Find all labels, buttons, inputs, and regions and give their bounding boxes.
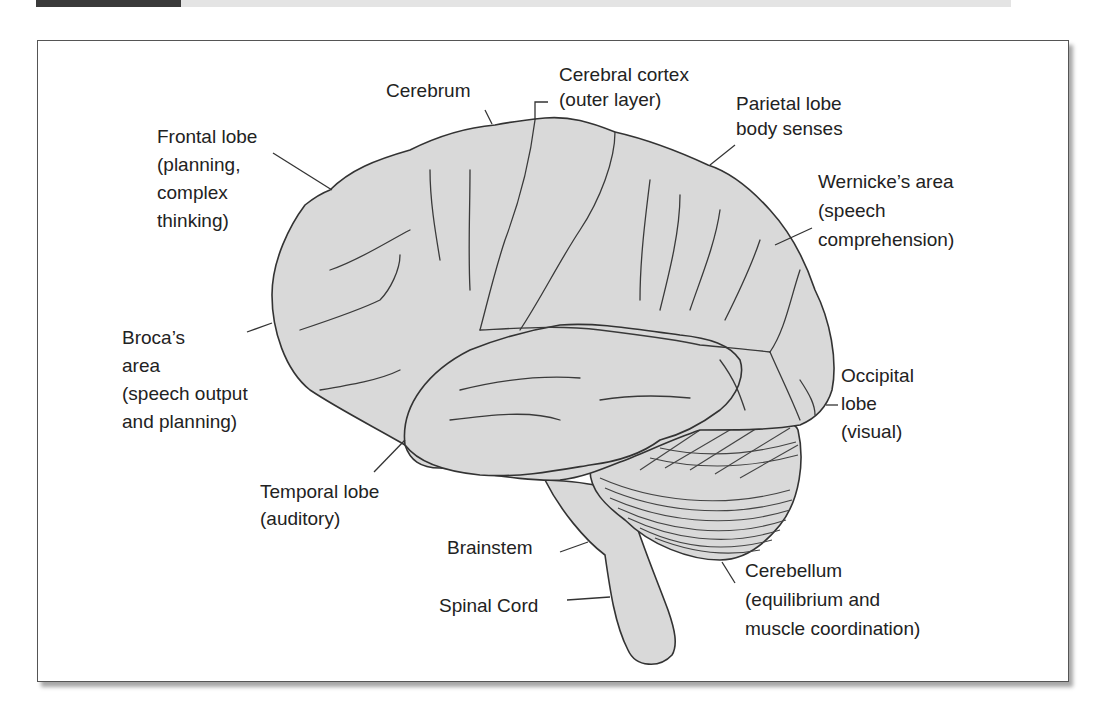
label-parietal-lobe: Parietal lobe body senses — [736, 93, 847, 139]
brain-diagram: Cerebrum Cerebral cortex (outer layer) P… — [0, 0, 1111, 728]
label-brocas-area: Broca’s area (speech output and planning… — [122, 327, 253, 432]
label-wernickes-area: Wernicke’s area (speech comprehension) — [818, 171, 959, 250]
label-cerebellum: Cerebellum (equilibrium and muscle coord… — [745, 560, 920, 639]
label-frontal-lobe: Frontal lobe (planning, complex thinking… — [157, 126, 263, 231]
label-cerebrum: Cerebrum — [386, 80, 470, 101]
label-temporal-lobe: Temporal lobe (auditory) — [260, 481, 385, 529]
label-brainstem: Brainstem — [447, 537, 533, 558]
label-occipital-lobe: Occipital lobe (visual) — [841, 365, 919, 442]
label-cerebral-cortex: Cerebral cortex (outer layer) — [559, 64, 694, 110]
label-spinal-cord: Spinal Cord — [439, 595, 538, 616]
